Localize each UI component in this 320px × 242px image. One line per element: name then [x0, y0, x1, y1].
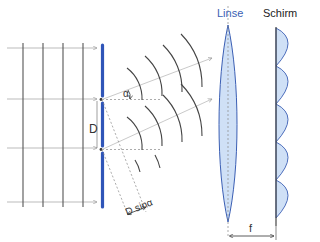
angle-label: α	[123, 89, 129, 99]
lens-label: Linse	[217, 8, 243, 19]
slit-distance-label: D	[89, 123, 98, 135]
screen-label: Schirm	[263, 8, 297, 19]
diffracted-wavefronts	[127, 34, 202, 172]
screen	[276, 27, 288, 226]
plane-wavefronts	[23, 43, 83, 207]
focal-length-label: f	[249, 223, 252, 234]
lens	[219, 6, 237, 236]
